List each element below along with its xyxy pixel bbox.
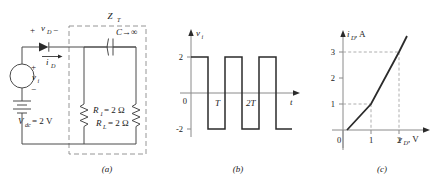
vd-minus-label: − xyxy=(53,25,58,35)
r1-label-sub: 1 xyxy=(100,110,103,117)
waveform-xlabel: t xyxy=(290,97,293,107)
waveform-y-axis-arrow-icon xyxy=(188,29,193,36)
vi-minus-label: − xyxy=(31,84,36,94)
iv-xlabel-unit: , V xyxy=(408,134,419,144)
panel-waveform-b: v i t 2 0 -2 T 2T (b) xyxy=(158,0,308,182)
rl-value: = 2 Ω xyxy=(108,118,129,128)
figure-root: Z T + v D − i D + v i − xyxy=(0,0,444,182)
diode-triangle-icon xyxy=(39,43,49,52)
r1-label: R xyxy=(92,105,99,115)
waveform-ylabel-sub: i xyxy=(202,33,204,40)
waveform-chart-svg: v i t 2 0 -2 T 2T (b) xyxy=(158,0,308,182)
iv-xtick-label-0: 0 xyxy=(337,135,341,145)
id-label-sub: D xyxy=(50,62,56,69)
vi-label: v xyxy=(32,72,36,82)
vi-label-sub: i xyxy=(38,77,40,84)
waveform-ylabel: v xyxy=(196,28,200,38)
waveform-ytick-label-2: 2 xyxy=(179,52,183,62)
waveform-xtick-label-T: T xyxy=(215,98,221,108)
iv-ytick-label-2: 2 xyxy=(331,73,335,83)
vd-plus-label: + xyxy=(30,25,35,35)
id-label: i xyxy=(46,57,49,67)
caption-b: (b) xyxy=(233,164,244,174)
rl-label-sub: L xyxy=(102,123,107,130)
r1-value: = 2 Ω xyxy=(104,105,125,115)
iv-ylabel: i xyxy=(347,29,350,39)
panel-iv-curve-c: i D , A v D , V 1 2 3 0 1 2 xyxy=(302,0,444,182)
caption-c: (c) xyxy=(377,164,387,174)
vdc-label-sub: dc xyxy=(25,121,31,128)
iv-xtick-label-2: 2 xyxy=(397,135,401,145)
waveform-x-axis-arrow-icon xyxy=(293,90,300,95)
zt-label-sub: T xyxy=(117,16,121,23)
iv-curve-trace xyxy=(347,36,407,130)
iv-y-axis-arrow-icon xyxy=(340,30,345,37)
vdc-label: V xyxy=(18,116,25,126)
iv-ytick-label-3: 3 xyxy=(331,47,335,57)
iv-xtick-label-1: 1 xyxy=(369,135,373,145)
waveform-ytick-label-neg2: -2 xyxy=(176,124,183,134)
iv-x-axis-arrow-icon xyxy=(423,127,430,132)
vd-label-sub: D xyxy=(46,28,52,35)
iv-curve-chart-svg: i D , A v D , V 1 2 3 0 1 2 xyxy=(302,0,444,182)
circuit-diagram-svg: Z T + v D − i D + v i − xyxy=(0,0,160,182)
resistor-rl-symbol xyxy=(132,47,140,144)
zt-label: Z xyxy=(107,11,113,21)
waveform-xtick-label-2T: 2T xyxy=(246,98,257,108)
rl-label: R xyxy=(95,118,102,128)
vdc-value: = 2 V xyxy=(32,116,53,126)
caption-a: (a) xyxy=(102,164,113,174)
vi-plus-label: + xyxy=(31,62,36,72)
vd-label: v xyxy=(41,23,45,33)
waveform-ytick-label-0: 0 xyxy=(183,96,187,106)
capacitor-limit-label: →∞ xyxy=(122,27,137,37)
resistor-r1-symbol xyxy=(80,101,88,144)
panel-circuit-a: Z T + v D − i D + v i − xyxy=(0,0,160,182)
id-arrow-head-icon xyxy=(58,55,63,59)
iv-ytick-label-1: 1 xyxy=(331,99,335,109)
iv-ylabel-unit: , A xyxy=(355,29,366,39)
